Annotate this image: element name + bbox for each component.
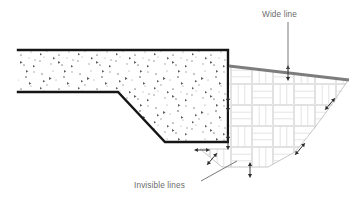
arrow-head-1 xyxy=(248,174,252,177)
concrete-slab-region xyxy=(18,50,228,142)
section-detail-svg: Wide line Invisible lines xyxy=(0,0,363,201)
wide-line-label: Wide line xyxy=(262,10,297,19)
diagram-canvas: Wide line Invisible lines xyxy=(0,0,363,201)
arrow-head-1 xyxy=(195,148,198,152)
annotation-wide-line: Wide line xyxy=(262,10,297,72)
invisible-lines-label: Invisible lines xyxy=(134,181,185,190)
